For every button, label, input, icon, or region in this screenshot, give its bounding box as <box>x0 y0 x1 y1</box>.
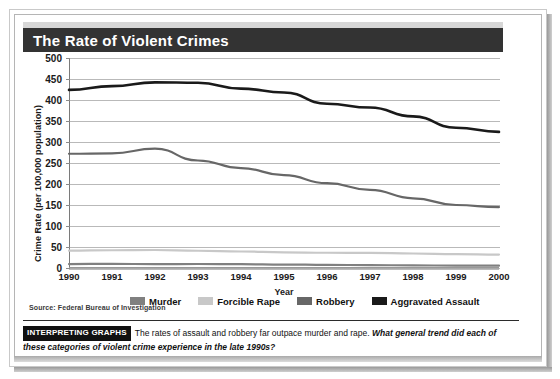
plot-area: Crime Rate (per 100,000 population) 0501… <box>22 58 522 290</box>
y-tick-mark <box>66 268 70 269</box>
x-tick-label: 1998 <box>402 271 423 282</box>
series-line <box>69 264 499 266</box>
y-tick-label: 200 <box>45 179 62 190</box>
interpreting-graphs-caption: INTERPRETING GRAPHSThe rates of assault … <box>23 326 519 354</box>
y-tick-label: 450 <box>45 74 62 85</box>
x-tick-label: 1994 <box>230 271 251 282</box>
y-tick-label: 400 <box>45 95 62 106</box>
frame-shadow-right <box>547 14 552 372</box>
y-tick-label: 100 <box>45 221 62 232</box>
figure-bottom-bar <box>14 356 542 362</box>
x-tick-label: 1996 <box>316 271 337 282</box>
y-tick-mark <box>66 247 70 248</box>
caption-divider <box>23 320 519 321</box>
y-tick-mark <box>66 226 70 227</box>
legend-swatch-icon <box>372 297 387 305</box>
y-tick-mark <box>66 58 70 59</box>
series-line <box>69 82 499 132</box>
legend-label: Forcible Rape <box>217 296 280 307</box>
legend-item: Forcible Rape <box>198 296 280 307</box>
x-tick-label: 1997 <box>359 271 380 282</box>
x-axis-baseline <box>69 267 499 270</box>
caption-badge: INTERPRETING GRAPHS <box>23 326 131 341</box>
violent-crime-figure: The Rate of Violent Crimes Crime Rate (p… <box>0 0 560 379</box>
y-tick-mark <box>66 79 70 80</box>
x-tick-label: 1995 <box>273 271 294 282</box>
y-axis-label: Crime Rate (per 100,000 population) <box>19 66 37 266</box>
y-tick-label: 500 <box>45 53 62 64</box>
y-tick-label: 50 <box>51 242 62 253</box>
y-tick-mark <box>66 163 70 164</box>
x-tick-label: 1992 <box>144 271 165 282</box>
legend-swatch-icon <box>198 297 213 305</box>
y-tick-label: 150 <box>45 200 62 211</box>
x-axis-ticks: 1990199119921993199419951996199719981999… <box>69 271 499 287</box>
x-tick-label: 1993 <box>187 271 208 282</box>
chart-lines <box>69 58 499 268</box>
series-line <box>69 149 499 207</box>
y-tick-mark <box>66 100 70 101</box>
legend-item: Murder <box>130 296 181 307</box>
y-tick-label: 300 <box>45 137 62 148</box>
y-tick-mark <box>66 184 70 185</box>
legend-label: Murder <box>149 296 181 307</box>
x-tick-label: 2000 <box>488 271 509 282</box>
figure-title-bar: The Rate of Violent Crimes <box>23 28 503 52</box>
y-tick-mark <box>66 121 70 122</box>
x-tick-label: 1991 <box>101 271 122 282</box>
legend-item: Robbery <box>297 296 355 307</box>
caption-lead: The rates of assault and robbery far out… <box>135 328 370 338</box>
x-tick-label: 1990 <box>58 271 79 282</box>
y-tick-mark <box>66 205 70 206</box>
legend-swatch-icon <box>130 297 145 305</box>
legend-item: Aggravated Assault <box>372 296 480 307</box>
frame-shadow-bottom <box>14 367 552 372</box>
page-title: The Rate of Violent Crimes <box>23 32 229 49</box>
legend-swatch-icon <box>297 297 312 305</box>
chart-legend: MurderForcible RapeRobberyAggravated Ass… <box>130 294 500 308</box>
x-tick-label: 1999 <box>445 271 466 282</box>
legend-label: Robbery <box>316 296 355 307</box>
y-tick-mark <box>66 142 70 143</box>
y-tick-label: 350 <box>45 116 62 127</box>
series-line <box>69 250 499 255</box>
legend-label: Aggravated Assault <box>391 296 480 307</box>
y-axis-ticks: 050100150200250300350400450500 <box>36 58 66 268</box>
y-tick-label: 250 <box>45 158 62 169</box>
